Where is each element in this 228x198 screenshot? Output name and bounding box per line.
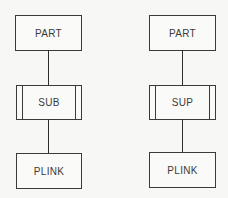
right-plink-label: PLINK xyxy=(167,165,197,176)
diagram-canvas: PART SUB PLINK PART SUP PLINK xyxy=(0,0,228,198)
left-sub-plink-connector xyxy=(48,119,49,154)
right-sup-label: SUP xyxy=(172,97,193,108)
left-sub-box: SUB xyxy=(16,85,82,120)
right-part-sup-connector xyxy=(182,50,183,86)
left-part-label: PART xyxy=(35,28,62,39)
right-sup-box: SUP xyxy=(149,85,216,120)
left-part-sub-connector xyxy=(48,50,49,86)
right-plink-box: PLINK xyxy=(149,152,216,188)
left-part-box: PART xyxy=(15,15,82,51)
right-part-box: PART xyxy=(149,15,216,51)
left-plink-box: PLINK xyxy=(16,153,82,189)
right-sup-plink-connector xyxy=(182,119,183,153)
right-part-label: PART xyxy=(169,28,196,39)
left-plink-label: PLINK xyxy=(34,166,64,177)
left-sub-label: SUB xyxy=(38,97,59,108)
